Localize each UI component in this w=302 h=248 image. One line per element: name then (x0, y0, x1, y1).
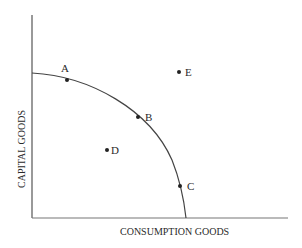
ppf-curve (32, 73, 186, 218)
point-c-label: C (187, 180, 194, 192)
x-axis-label: CONSUMPTION GOODS (120, 226, 229, 237)
ppf-diagram: A B C D E CONSUMPTION GOODS CAPITAL GOOD… (0, 0, 302, 248)
point-a-dot (65, 78, 69, 82)
point-d-label: D (111, 144, 119, 156)
y-axis-label: CAPITAL GOODS (16, 110, 27, 188)
point-a-label: A (61, 62, 69, 74)
point-b-label: B (145, 111, 152, 123)
point-b-dot (136, 115, 140, 119)
point-c-dot (178, 184, 182, 188)
point-e-label: E (185, 66, 192, 78)
point-e-dot (177, 70, 181, 74)
point-d-dot (105, 148, 109, 152)
